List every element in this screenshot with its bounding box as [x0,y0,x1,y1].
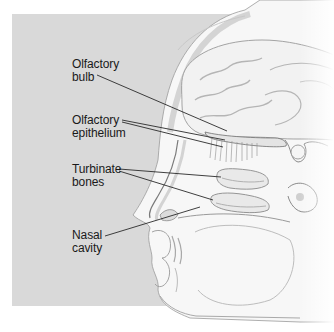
label-line: cavity [72,242,102,255]
label-nasal-cavity: Nasal cavity [72,229,102,255]
label-turbinate-bones: Turbinate bones [72,163,121,189]
label-line: bones [72,176,121,189]
label-olfactory-bulb: Olfactory bulb [72,58,119,84]
label-olfactory-epithelium: Olfactory epithelium [72,114,126,140]
head-sagittal-illustration [0,0,334,332]
label-line: bulb [72,71,119,84]
label-line: epithelium [72,127,126,140]
